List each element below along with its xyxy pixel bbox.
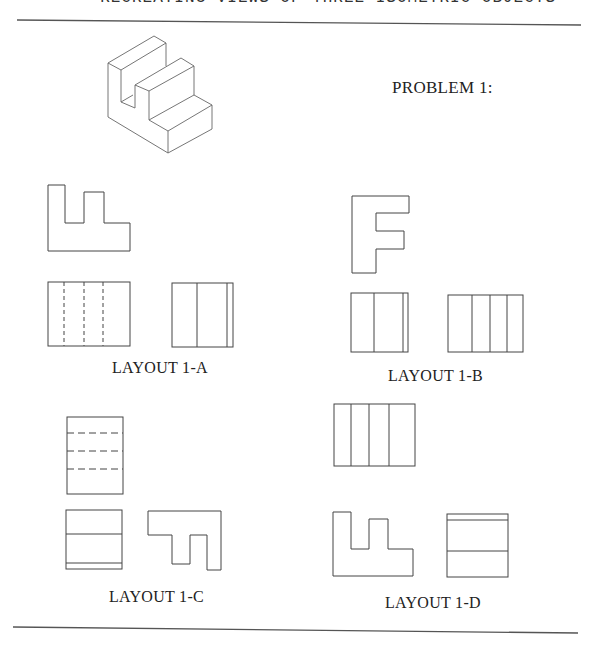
layout-1c-label: LAYOUT 1-C [109,588,204,606]
layout-1d-side-view [447,514,508,577]
top-rule [17,20,581,25]
layout-1b-front-view [448,295,523,352]
layout-1c-front-view [66,510,122,569]
layout-1d-label: LAYOUT 1-D [385,594,481,612]
layout-1d-top-view [334,404,415,466]
layout-1b-label: LAYOUT 1-B [388,367,483,385]
drawing-canvas [0,0,602,648]
layout-1c [66,417,221,570]
layout-1a-side-view [172,283,233,347]
layout-1a [48,185,233,347]
bottom-rule [13,627,578,633]
layout-1c-top-view [67,417,123,494]
layout-1d-front-profile [333,512,413,576]
layout-1b-f-profile [352,196,409,273]
layout-1c-inverted-profile [148,511,221,570]
layout-1d [333,404,508,577]
layout-1b-side-view [351,293,408,352]
layout-1a-front-view [48,282,130,346]
layout-1b [351,196,523,352]
layout-1a-top-profile [48,185,130,251]
isometric-object [108,36,212,153]
problem-title: PROBLEM 1: [392,78,493,98]
layout-1a-label: LAYOUT 1-A [112,359,208,377]
